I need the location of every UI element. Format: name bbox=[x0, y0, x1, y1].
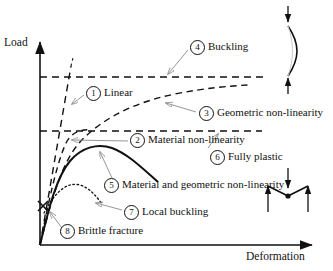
callout-marker-5: 5 bbox=[104, 178, 119, 193]
load-deformation-diagram: Load Deformation 4 Buckling 1 Linear 3 G… bbox=[0, 0, 333, 271]
buckled-column-icon bbox=[288, 6, 297, 94]
callout-material-and-geometric: 5 Material and geometric non-linearity bbox=[104, 178, 284, 193]
callout-linear: 1 Linear bbox=[86, 86, 133, 101]
callout-marker-8: 8 bbox=[60, 224, 75, 239]
callout-label-fully-plastic: Fully plastic bbox=[228, 150, 283, 163]
callout-local-buckling: 7 Local buckling bbox=[124, 205, 208, 220]
callout-label-brittle-fracture: Brittle fracture bbox=[78, 224, 143, 237]
leader-linear bbox=[72, 95, 84, 104]
callout-marker-4: 4 bbox=[190, 40, 205, 55]
axis-label-deformation: Deformation bbox=[246, 250, 305, 263]
callout-buckling: 4 Buckling bbox=[190, 40, 248, 55]
callout-label-local-buckling: Local buckling bbox=[142, 205, 208, 218]
leader-material-geometric bbox=[100, 152, 112, 178]
callout-marker-2: 2 bbox=[130, 133, 145, 148]
callout-label-buckling: Buckling bbox=[208, 40, 248, 53]
callout-label-material-and-geometric: Material and geometric non-linearity bbox=[122, 178, 284, 191]
curve-local-buckling bbox=[44, 184, 102, 213]
curve-linear bbox=[40, 58, 73, 245]
callout-label-linear: Linear bbox=[104, 86, 133, 99]
axis-label-load: Load bbox=[4, 36, 28, 49]
leader-local-buckling bbox=[96, 203, 122, 210]
callout-marker-6: 6 bbox=[210, 150, 225, 165]
callout-marker-7: 7 bbox=[124, 205, 139, 220]
callout-marker-1: 1 bbox=[86, 86, 101, 101]
callout-label-material-nonlinearity: Material non-linearity bbox=[148, 133, 245, 146]
callout-marker-3: 3 bbox=[199, 106, 214, 121]
callout-label-geometric-nonlinearity: Geometric non-linearity bbox=[217, 106, 323, 119]
callout-fully-plastic: 6 Fully plastic bbox=[210, 150, 283, 165]
callout-brittle-fracture: 8 Brittle fracture bbox=[60, 224, 143, 239]
leader-buckling bbox=[168, 50, 188, 74]
leader-geometric bbox=[166, 103, 196, 112]
callout-material-nonlinearity: 2 Material non-linearity bbox=[130, 133, 245, 148]
callout-geometric-nonlinearity: 3 Geometric non-linearity bbox=[199, 106, 323, 121]
